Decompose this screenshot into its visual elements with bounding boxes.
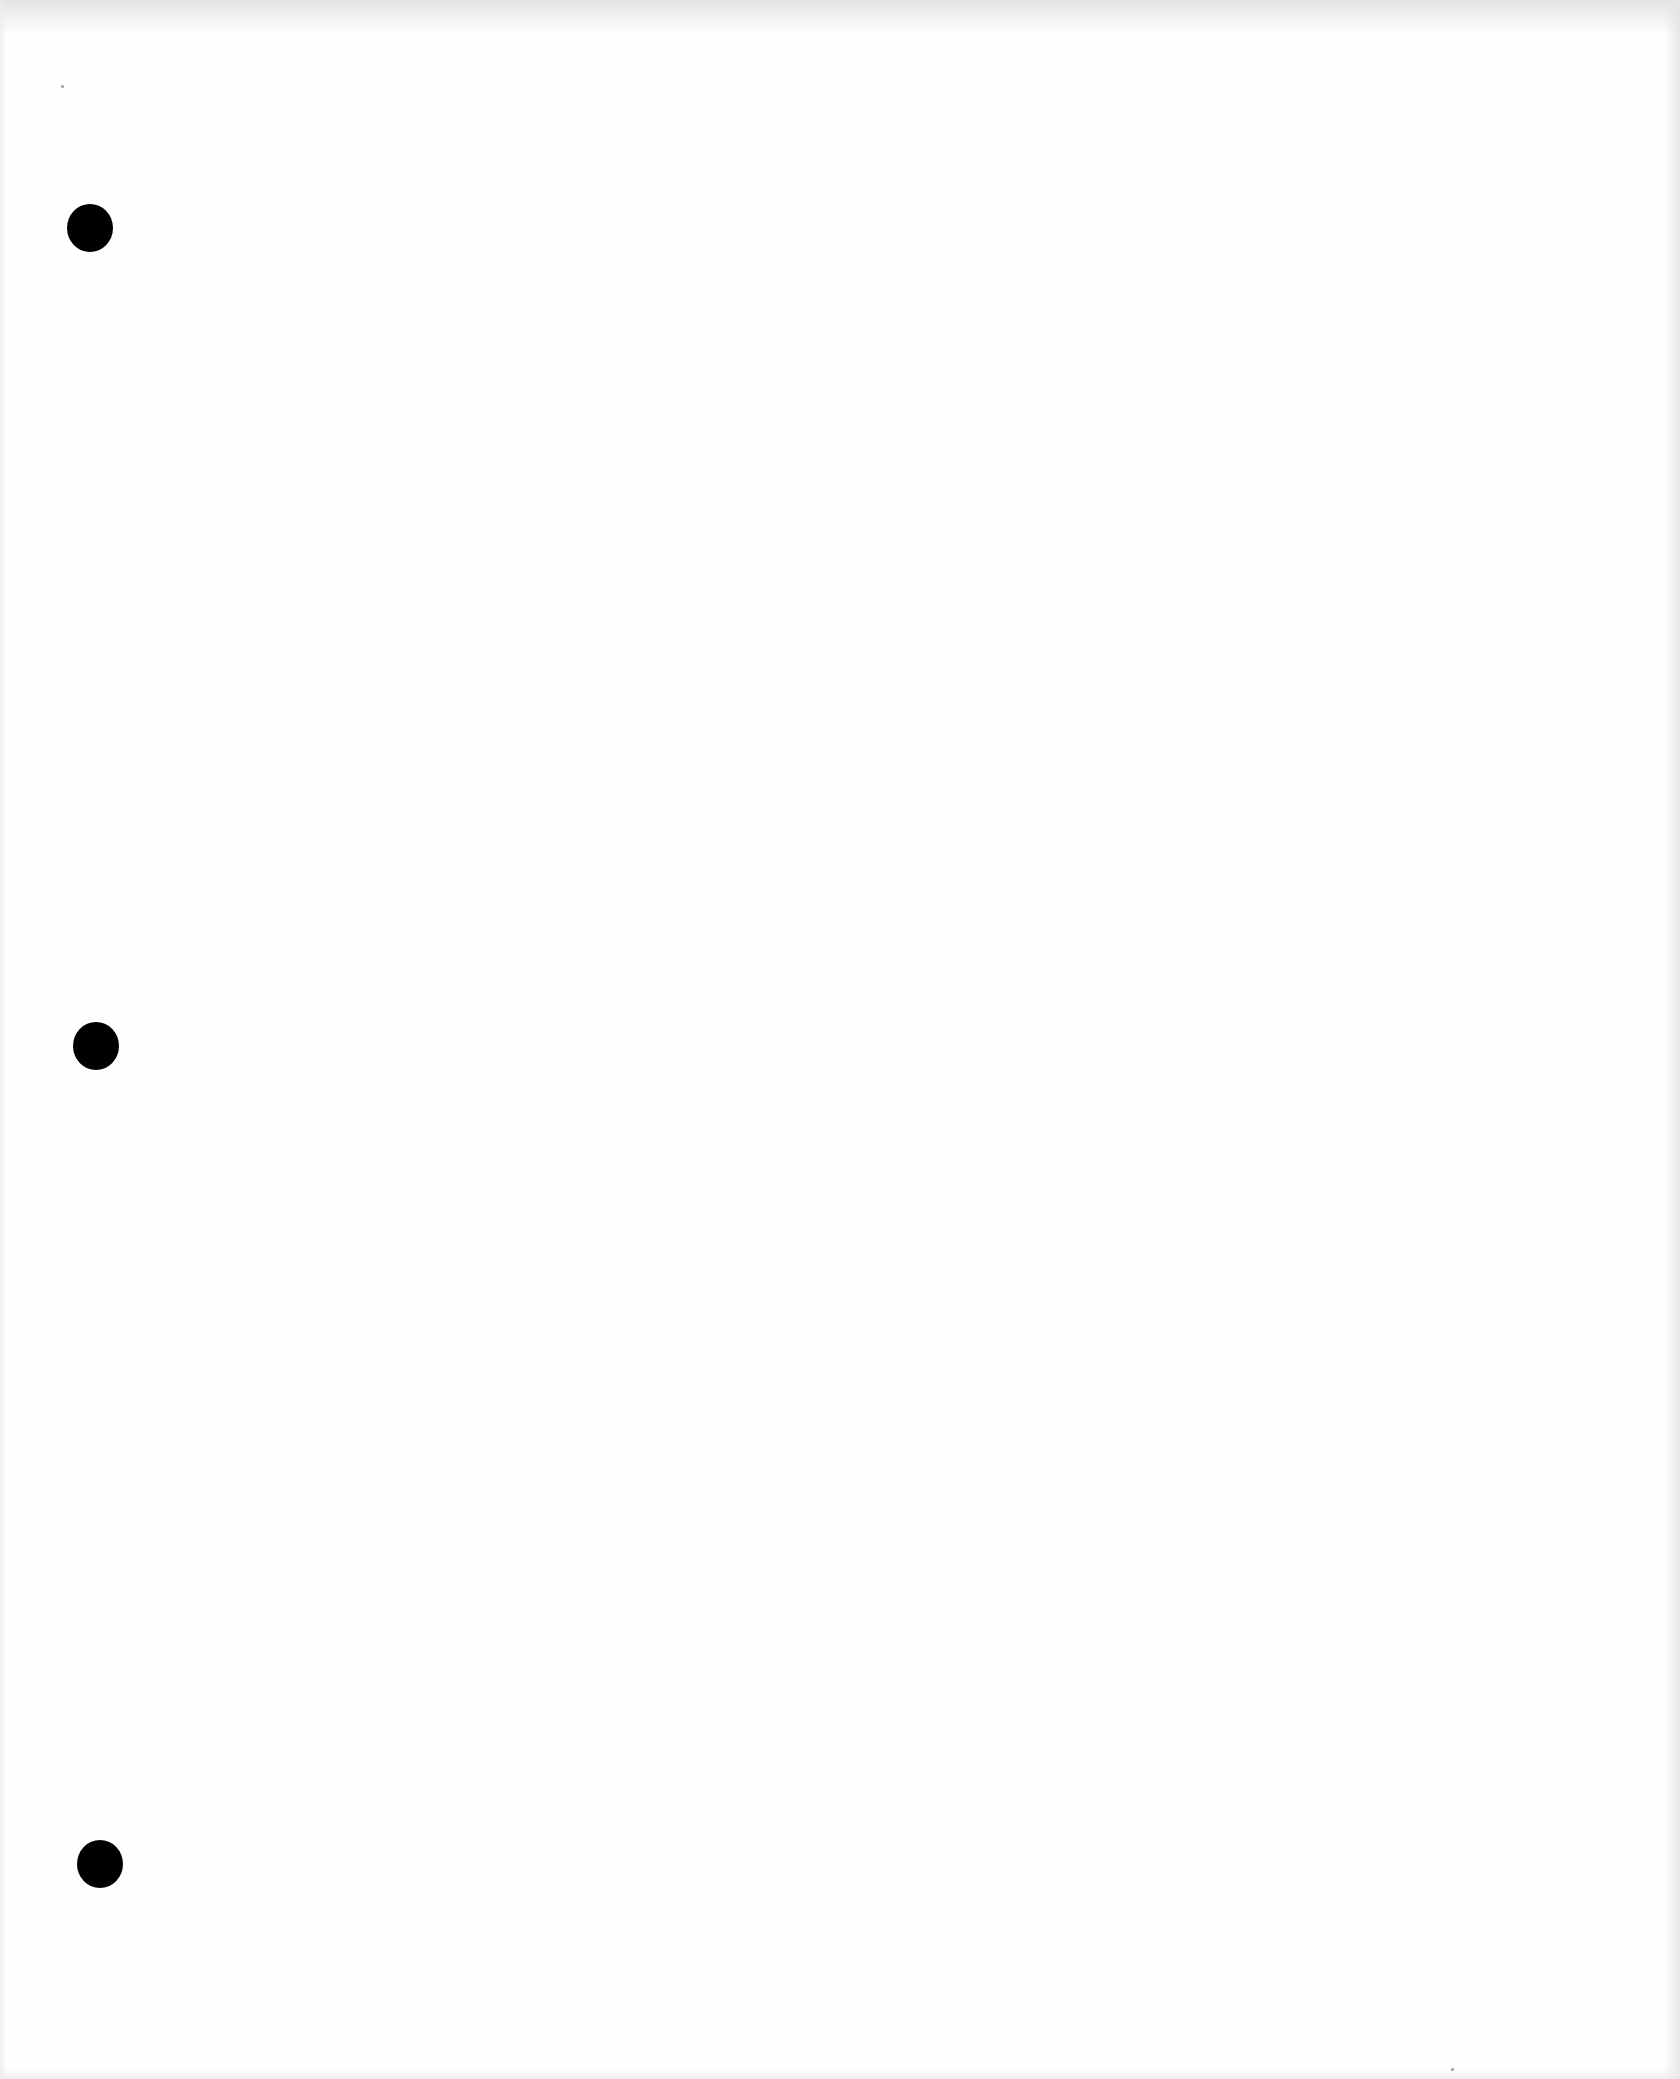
scan-shadow-left [0, 0, 6, 2079]
punch-hole-top [67, 204, 113, 252]
punch-hole-middle [73, 1022, 119, 1070]
dust-speck [1451, 2068, 1454, 2071]
dust-speck [61, 85, 64, 88]
scan-shadow-top [0, 0, 1680, 34]
blank-document-page [0, 0, 1680, 2079]
scan-shadow-right [1664, 0, 1680, 2079]
scan-shadow-bottom [0, 2069, 1680, 2079]
punch-hole-bottom [77, 1840, 123, 1888]
